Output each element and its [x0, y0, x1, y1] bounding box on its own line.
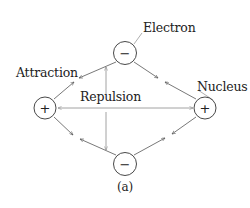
attraction-label: Attraction [16, 67, 78, 80]
plus-sign-icon: + [40, 101, 51, 116]
attraction-arrows-bottom-right [134, 117, 196, 155]
nucleus-label: Nucleus [197, 81, 247, 94]
minus-sign-icon: − [120, 46, 131, 61]
electron-label: Electron [143, 22, 196, 35]
electron-bottom-node: − [114, 153, 137, 176]
electron-leader-line [134, 33, 142, 44]
diagram-canvas: − + + − [0, 0, 250, 208]
attraction-arrows-top-right [134, 62, 196, 99]
repulsion-label: Repulsion [80, 91, 141, 104]
attraction-arrows-bottom-left [54, 117, 116, 155]
minus-sign-icon: − [120, 157, 131, 172]
nucleus-right-node: + [194, 97, 216, 119]
plus-sign-icon: + [200, 101, 211, 116]
electron-top-node: − [114, 42, 137, 65]
nucleus-left-node: + [34, 97, 56, 119]
figure-caption: (a) [117, 181, 133, 193]
